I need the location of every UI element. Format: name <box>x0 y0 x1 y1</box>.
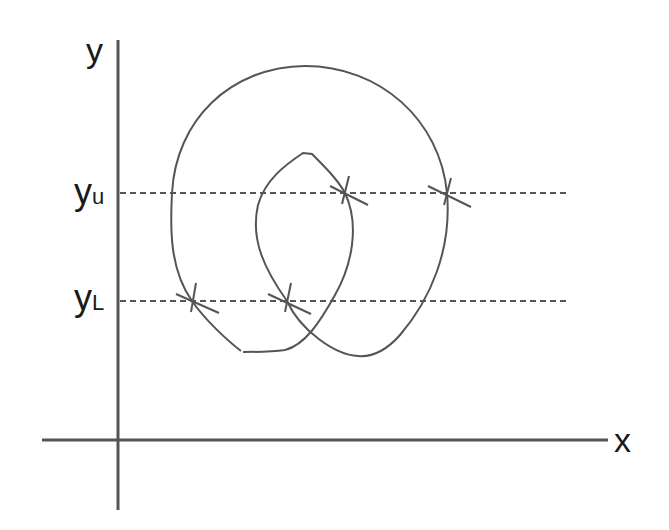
x-axis-label: x <box>614 421 631 459</box>
level-crossing-diagram: y x yu yL <box>0 0 669 530</box>
crossing-mark-lower-2 <box>268 283 311 314</box>
upper-level-label: yu <box>74 171 104 212</box>
lower-level-label: yL <box>74 277 104 318</box>
svg-text:yL: yL <box>74 277 104 318</box>
y-axis-label: y <box>86 31 103 69</box>
svg-text:yu: yu <box>74 171 104 212</box>
